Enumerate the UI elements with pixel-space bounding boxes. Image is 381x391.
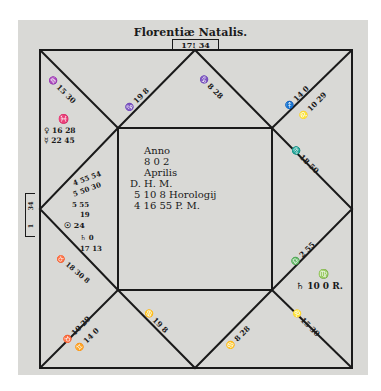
house-1-row-3: 5 55 (72, 201, 89, 208)
birth-data-block: Anno 8 0 2 Aprilis D. H. M. 5 10 8 Horol… (130, 145, 280, 211)
house-1-row-6: ♄ 0 (80, 234, 94, 241)
house-12-sign: ♓ (58, 115, 69, 124)
year-value: 8 0 2 (130, 156, 280, 167)
house-12-mercury: ☿ 22 45 (44, 137, 75, 145)
month-label: Aprilis (130, 167, 280, 178)
house-1-row-7: 17 13 (80, 245, 102, 252)
house-7-saturn: ♄ 10 0 R. (296, 282, 343, 291)
pm-time: 4 16 55 P. M. (130, 200, 280, 211)
dhm-header: D. H. M. (130, 178, 280, 189)
house-1-row-4: 19 (80, 211, 90, 218)
house-7-virgo: ♍ (318, 270, 329, 279)
house-1-sun: ☉ 24 (64, 221, 85, 229)
year-label: Anno (130, 145, 280, 156)
house-12-venus: ♀ 16 28 (44, 127, 76, 135)
clock-time: 5 10 8 Horologij (130, 189, 280, 200)
